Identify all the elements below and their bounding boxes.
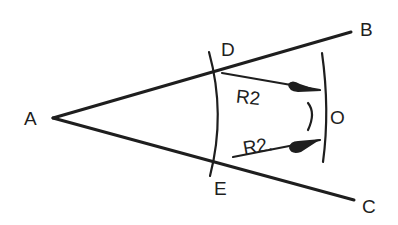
label-b: B	[360, 19, 373, 40]
arrowhead-lower-icon	[289, 139, 321, 153]
label-d: D	[221, 39, 235, 60]
arrowhead-upper-icon	[288, 82, 321, 93]
angle-bisection-diagram: A B C D E O R2 R2.	[0, 0, 398, 225]
label-radius-lower: R2.	[241, 133, 274, 159]
ray-ab	[53, 32, 351, 118]
label-radius-upper: R2	[235, 86, 261, 109]
label-a: A	[24, 108, 37, 129]
arc-from-e	[308, 103, 312, 130]
arc-from-d	[322, 53, 326, 162]
label-o: O	[330, 107, 345, 128]
label-c: C	[362, 196, 376, 217]
label-e: E	[214, 178, 227, 199]
